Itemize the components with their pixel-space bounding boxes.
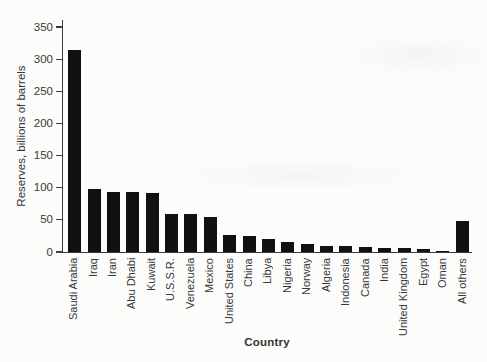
- x-label-slot: Mexico: [200, 258, 219, 346]
- bar-slot: [65, 20, 84, 252]
- y-tick-mark: [56, 59, 63, 60]
- x-tick-label: United States: [223, 258, 236, 346]
- plot-area: 050100150200250300350: [62, 20, 472, 253]
- bar-slot: [453, 20, 472, 252]
- bar-iraq: [88, 189, 101, 252]
- x-label-slot: China: [239, 258, 258, 346]
- y-tick-mark: [56, 219, 63, 220]
- y-tick-mark: [56, 187, 63, 188]
- x-tick-label: Indonesia: [339, 258, 352, 346]
- bar-slot: [317, 20, 336, 252]
- bar-iran: [107, 192, 120, 252]
- x-tick-label: Norway: [300, 258, 313, 346]
- bar-slot: [259, 20, 278, 252]
- x-label-slot: Libya: [258, 258, 277, 346]
- x-tick-label: Nigeria: [281, 258, 294, 346]
- bar-egypt: [417, 249, 430, 252]
- x-tick-label: Kuwait: [145, 258, 158, 346]
- bar-slot: [394, 20, 413, 252]
- x-label-slot: Canada: [355, 258, 374, 346]
- bar-slot: [162, 20, 181, 252]
- bar-chart-figure: Reserves, billions of barrels 0501001502…: [0, 0, 487, 362]
- bar-slot: [143, 20, 162, 252]
- bar-norway: [301, 244, 314, 252]
- bar-slot: [201, 20, 220, 252]
- y-tick-label: 100: [19, 181, 53, 194]
- x-tick-label: China: [242, 258, 255, 346]
- x-label-slot: Algeria: [316, 258, 335, 346]
- x-label-slot: Saudi Arabia: [64, 258, 83, 346]
- y-tick-mark: [56, 155, 63, 156]
- y-tick-mark: [56, 26, 63, 27]
- y-tick-label: 350: [19, 21, 53, 34]
- x-label-slot: United Kingdom: [394, 258, 413, 346]
- bar-india: [378, 248, 391, 253]
- x-axis-labels: Saudi ArabiaIraqIranAbu DhabiKuwaitU.S.S…: [64, 258, 472, 346]
- x-tick-label: India: [378, 258, 391, 346]
- bar-slot: [239, 20, 258, 252]
- x-label-slot: All others: [452, 258, 471, 346]
- bar-nigeria: [281, 242, 294, 252]
- x-tick-label: Saudi Arabia: [67, 258, 80, 346]
- x-tick-label: Egypt: [417, 258, 430, 346]
- y-tick-label: 50: [19, 213, 53, 226]
- x-label-slot: Nigeria: [278, 258, 297, 346]
- bar-united-kingdom: [398, 248, 411, 252]
- bar-oman: [436, 251, 449, 252]
- bar-abu-dhabi: [126, 192, 139, 252]
- bar-saudi-arabia: [68, 50, 81, 253]
- x-label-slot: Egypt: [414, 258, 433, 346]
- y-tick-label: 0: [19, 246, 53, 259]
- x-label-slot: Abu Dhabi: [122, 258, 141, 346]
- y-tick-label: 300: [19, 53, 53, 66]
- bar-slot: [298, 20, 317, 252]
- bar-venezuela: [184, 214, 197, 252]
- bar-united-states: [223, 235, 236, 252]
- x-label-slot: India: [375, 258, 394, 346]
- bar-kuwait: [146, 193, 159, 252]
- x-label-slot: Norway: [297, 258, 316, 346]
- bar-slot: [181, 20, 200, 252]
- bar-slot: [356, 20, 375, 252]
- x-tick-label: Canada: [359, 258, 372, 346]
- x-label-slot: United States: [219, 258, 238, 346]
- x-tick-label: United Kingdom: [397, 258, 410, 346]
- x-label-slot: Venezuela: [181, 258, 200, 346]
- x-tick-label: Iraq: [87, 258, 100, 346]
- x-label-slot: Indonesia: [336, 258, 355, 346]
- bar-china: [243, 236, 256, 252]
- bar-slot: [375, 20, 394, 252]
- bar-canada: [359, 247, 372, 252]
- bar-all-others: [456, 221, 469, 253]
- bar-slot: [336, 20, 355, 252]
- x-axis-title: Country: [62, 336, 472, 348]
- bar-slot: [123, 20, 142, 252]
- y-tick-mark: [56, 91, 63, 92]
- bars-row: [65, 20, 472, 252]
- bar-slot: [433, 20, 452, 252]
- bar-slot: [220, 20, 239, 252]
- bar-slot: [414, 20, 433, 252]
- x-tick-label: Abu Dhabi: [125, 258, 138, 346]
- x-label-slot: Oman: [433, 258, 452, 346]
- y-tick-label: 150: [19, 149, 53, 162]
- bar-slot: [104, 20, 123, 252]
- x-label-slot: U.S.S.R.: [161, 258, 180, 346]
- x-tick-label: All others: [456, 258, 469, 346]
- x-tick-label: Venezuela: [184, 258, 197, 346]
- bar-indonesia: [339, 246, 352, 252]
- y-tick-mark: [56, 123, 63, 124]
- x-tick-label: Algeria: [320, 258, 333, 346]
- x-tick-label: U.S.S.R.: [164, 258, 177, 346]
- x-label-slot: Iran: [103, 258, 122, 346]
- bar-u-s-s-r-: [165, 214, 178, 252]
- x-tick-label: Iran: [106, 258, 119, 346]
- y-tick-label: 200: [19, 117, 53, 130]
- bar-slot: [84, 20, 103, 252]
- x-tick-label: Libya: [261, 258, 274, 346]
- y-tick-mark: [56, 251, 63, 252]
- x-label-slot: Iraq: [83, 258, 102, 346]
- bar-algeria: [320, 246, 333, 252]
- x-tick-label: Mexico: [203, 258, 216, 346]
- y-tick-label: 250: [19, 85, 53, 98]
